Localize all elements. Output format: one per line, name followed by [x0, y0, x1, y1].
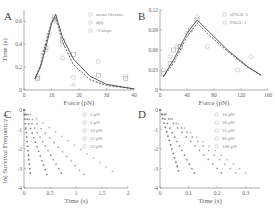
y-tick-label: -3	[17, 166, 22, 172]
y-tick-label: 0.6	[15, 18, 22, 24]
fit-curve	[163, 23, 261, 76]
x-tick-label: 0.1	[185, 190, 192, 196]
x-tick-label: 0.2	[214, 190, 221, 196]
y-tick-label: 0	[155, 107, 158, 113]
legend-entry: -1/slope	[96, 28, 113, 33]
x-tick-label: 0.5	[47, 190, 54, 196]
x-axis-label: Time (s)	[64, 197, 88, 205]
legend-entry: 55 pN	[222, 128, 235, 133]
legend-entry: 30 pN	[222, 120, 235, 125]
x-axis-label: Force (pN)	[64, 99, 96, 107]
x-tick-label: 30	[104, 92, 110, 98]
legend-entry: 20 pN	[90, 144, 103, 149]
y-tick-label: -1	[17, 127, 22, 133]
legend-entry: 3 pN	[90, 112, 100, 117]
panel-d: D00.10.20.3-4-3-2-10Time (s)10 pN30 pN55…	[138, 107, 260, 205]
fit-curve	[35, 18, 134, 89]
legend-entry: 10 pN	[222, 112, 235, 117]
x-tick-label: 0	[159, 92, 162, 98]
panel-label: B	[138, 10, 145, 22]
y-tick-label: 0.03	[148, 67, 158, 73]
x-tick-label: 0.3	[242, 190, 249, 196]
legend-entry: 10 pN	[90, 128, 103, 133]
x-tick-label: 40	[184, 92, 190, 98]
y-tick-label: 0.12	[148, 7, 158, 13]
legend-entry: 15 pN	[90, 136, 103, 141]
y-tick-label: 0.09	[148, 27, 158, 33]
y-tick-label: -1	[153, 127, 158, 133]
y-tick-label: -4	[17, 185, 22, 191]
legend-entry: sPSGL-1	[230, 12, 249, 17]
x-tick-label: 20	[76, 92, 82, 98]
panel-b: B0408012016000.030.060.090.12Force (pN)s…	[138, 7, 272, 107]
panel-a: A01020304000.20.40.6Force (pN)Time (s)me…	[1, 10, 137, 107]
x-tick-label: 160	[264, 92, 273, 98]
y-tick-label: 0	[155, 87, 158, 93]
y-tick-label: 0	[19, 87, 22, 93]
x-tick-label: 120	[237, 92, 246, 98]
y-tick-label: 0	[19, 107, 22, 113]
x-tick-label: 1	[75, 190, 78, 196]
fit-curve	[35, 15, 134, 89]
figure-canvas: A01020304000.20.40.6Force (pN)Time (s)me…	[0, 0, 275, 212]
legend-entry: 80 pN	[222, 136, 235, 141]
panel-c: C00.511.52-4-3-2-10Time (s)ln( Survival …	[1, 107, 130, 205]
x-tick-label: 1.5	[99, 190, 106, 196]
x-tick-label: 0	[23, 190, 26, 196]
legend-entry: 5 pN	[90, 120, 100, 125]
y-axis-label: Time (s)	[1, 38, 9, 62]
figure: A01020304000.20.40.6Force (pN)Time (s)me…	[0, 0, 275, 212]
x-tick-label: 10	[49, 92, 55, 98]
y-tick-label: -4	[153, 185, 158, 191]
y-tick-label: 0.06	[148, 47, 158, 53]
x-axis-label: Force (pN)	[199, 99, 231, 107]
x-tick-label: 40	[131, 92, 137, 98]
x-tick-label: 2	[127, 190, 130, 196]
y-tick-label: -2	[17, 146, 22, 152]
x-tick-label: 80	[211, 92, 217, 98]
y-tick-label: -2	[153, 146, 158, 152]
x-tick-label: 0	[23, 92, 26, 98]
legend-entry: mean lifetime	[96, 12, 124, 17]
panel-label: A	[4, 10, 12, 22]
legend-entry: d(t)	[96, 20, 104, 25]
x-axis-label: Time (s)	[198, 197, 222, 205]
y-tick-label: 0.2	[15, 64, 22, 70]
legend-entry: PSGL-1	[230, 20, 247, 25]
x-tick-label: 0	[159, 190, 162, 196]
y-axis-label: ln( Survival Frequency )	[1, 114, 9, 183]
panel-label: D	[138, 108, 146, 120]
legend-entry: 100 pN	[222, 144, 237, 149]
y-tick-label: 0.4	[15, 41, 22, 47]
y-tick-label: -3	[153, 166, 158, 172]
